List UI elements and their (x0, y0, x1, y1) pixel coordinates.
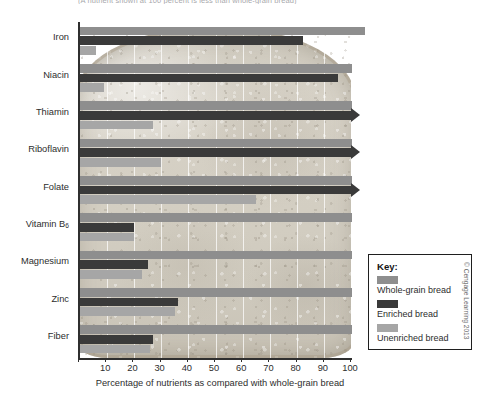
y-label-riboflavin: Riboflavin (28, 144, 69, 154)
legend-label-enriched-bread: Enriched bread (377, 309, 471, 319)
bar-group-zinc (80, 288, 390, 316)
legend-swatch-enriched-bread (377, 300, 398, 308)
bar-unenriched-magnesium (80, 270, 143, 279)
tickmark-50 (214, 358, 215, 362)
bar-group-fiber (80, 325, 390, 353)
y-label-niacin: Niacin (43, 70, 69, 80)
y-label-vitamin-b6: Vitamin B6 (26, 219, 69, 229)
plot-area (78, 22, 350, 358)
tickmark-90 (323, 358, 324, 362)
bar-whole-niacin (80, 64, 352, 73)
bar-unenriched-riboflavin (80, 158, 162, 167)
bar-group-vitamin-b6 (80, 213, 390, 241)
y-label-magnesium: Magnesium (21, 256, 69, 266)
bar-group-thiamin (80, 101, 390, 129)
legend-box: Key: Whole-grain breadEnriched breadUnen… (368, 254, 472, 350)
bar-group-niacin (80, 64, 390, 92)
bar-whole-zinc (80, 288, 352, 297)
bar-group-iron (80, 27, 390, 55)
bar-whole-vitamin-b6 (80, 213, 352, 222)
ticklabel-60: 60 (236, 363, 246, 373)
legend-label-unenriched-bread: Unenriched bread (377, 333, 471, 343)
ticklabel-10: 10 (100, 363, 110, 373)
figure-top-caption: (A nutrient shown at 100 percent is less… (78, 0, 408, 4)
x-axis-ticks: 102030405060708090100 (78, 358, 354, 380)
bar-whole-folate (80, 176, 352, 185)
tickmark-80 (296, 358, 297, 362)
ticklabel-100: 100 (342, 363, 358, 373)
bar-enriched-thiamin (80, 111, 352, 120)
y-axis-line (78, 22, 80, 358)
nutrient-comparison-figure: (A nutrient shown at 100 percent is less… (0, 0, 487, 407)
tickmark-40 (187, 358, 188, 362)
bar-enriched-iron (80, 36, 303, 45)
tickmark-30 (160, 358, 161, 362)
y-label-zinc: Zinc (51, 294, 69, 304)
legend-label-whole-grain-bread: Whole-grain bread (377, 285, 471, 295)
bar-enriched-fiber (80, 335, 153, 344)
y-label-fiber: Fiber (48, 331, 69, 341)
bar-whole-riboflavin (80, 139, 352, 148)
legend-swatch-unenriched-bread (377, 324, 398, 332)
x-axis-title: Percentage of nutrients as compared with… (60, 378, 380, 388)
ticklabel-90: 90 (318, 363, 328, 373)
bar-whole-magnesium (80, 251, 352, 260)
tickmark-10 (105, 358, 106, 362)
bar-unenriched-niacin (80, 83, 104, 92)
bar-whole-fiber (80, 325, 352, 334)
ticklabel-20: 20 (127, 363, 137, 373)
bar-enriched-magnesium (80, 260, 148, 269)
bar-unenriched-zinc (80, 307, 175, 316)
bar-enriched-vitamin-b6 (80, 223, 134, 232)
bar-enriched-folate (80, 186, 352, 195)
ticklabel-70: 70 (263, 363, 273, 373)
ticklabel-80: 80 (290, 363, 300, 373)
tickmark-60 (241, 358, 242, 362)
ticklabel-30: 30 (154, 363, 164, 373)
bar-group-riboflavin (80, 139, 390, 167)
y-label-thiamin: Thiamin (36, 107, 69, 117)
y-axis-category-labels: IronNiacinThiaminRiboflavinFolateVitamin… (0, 22, 74, 358)
tickmark-0 (78, 358, 79, 362)
bar-group-magnesium (80, 251, 390, 279)
bar-enriched-zinc (80, 298, 178, 307)
bar-enriched-riboflavin (80, 148, 352, 157)
bar-unenriched-vitamin-b6 (80, 233, 134, 242)
tickmark-20 (132, 358, 133, 362)
bar-enriched-niacin (80, 74, 338, 83)
copyright-credit: © Cengage Learning 2013 (463, 262, 470, 339)
bar-whole-iron (80, 27, 366, 36)
y-label-iron: Iron (53, 32, 69, 42)
legend-entries: Whole-grain breadEnriched breadUnenriche… (377, 276, 471, 343)
bar-unenriched-thiamin (80, 121, 153, 130)
bar-whole-thiamin (80, 101, 352, 110)
y-label-folate: Folate (43, 182, 69, 192)
bar-unenriched-iron (80, 46, 96, 55)
bar-unenriched-fiber (80, 345, 151, 354)
legend-swatch-whole-grain-bread (377, 276, 398, 284)
bar-group-folate (80, 176, 390, 204)
tickmark-70 (268, 358, 269, 362)
ticklabel-40: 40 (182, 363, 192, 373)
bar-groups (80, 22, 390, 358)
bar-unenriched-folate (80, 195, 257, 204)
legend-title: Key: (377, 261, 471, 272)
ticklabel-50: 50 (209, 363, 219, 373)
tickmark-100 (350, 358, 351, 362)
